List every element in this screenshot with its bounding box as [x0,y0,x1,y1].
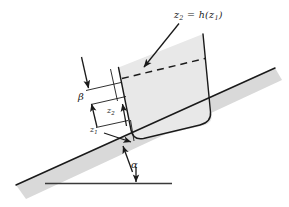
z2-subscript: 2 [111,110,114,116]
beta-lower-guide [91,97,126,105]
z2-left-arrow [92,104,98,127]
beta-arrow [82,57,89,88]
equation-paren-close: ) [219,9,223,20]
beta-label: β [78,92,84,102]
inclined-plane-diagram: z2 = h(z1) β z2 z1 α [0,0,289,207]
z2-label: z2 [107,107,115,116]
vessel-liquid-fill [119,34,212,140]
beta-upper-guide [86,83,121,91]
equation-lhs-subscript: 2 [179,14,183,22]
z2-baseline-guide [96,121,128,128]
z1-label: z1 [90,126,98,135]
equation-equals: = [187,9,195,20]
diagram-canvas [0,0,289,207]
free-surface-equation-label: z2 = h(z1) [174,10,223,21]
z1-subscript: 1 [94,129,97,135]
alpha-label: α [131,160,138,170]
